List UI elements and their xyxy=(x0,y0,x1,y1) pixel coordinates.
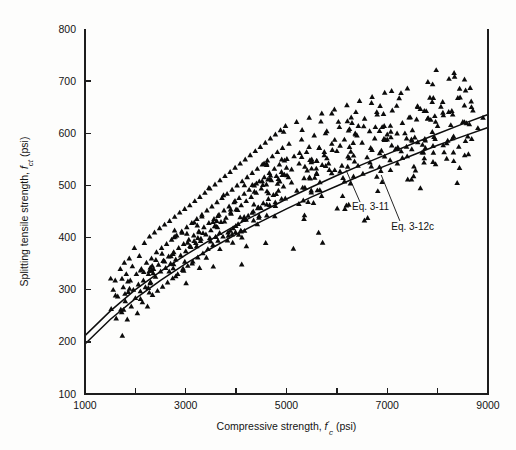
data-point-marker xyxy=(364,154,370,159)
data-point-marker xyxy=(336,119,342,124)
y-axis-title: Splitting tensile strength, fct (psi) xyxy=(18,137,35,287)
data-point-marker xyxy=(356,123,362,128)
data-point-marker xyxy=(127,256,133,261)
annotation-label: Eq. 3-12c xyxy=(391,221,434,232)
annotation-leader-line xyxy=(381,175,400,221)
data-point-marker xyxy=(463,88,469,93)
data-point-marker xyxy=(314,166,320,171)
data-point-marker xyxy=(222,173,228,178)
data-point-marker xyxy=(388,129,394,134)
data-point-marker xyxy=(332,167,338,172)
data-point-marker xyxy=(348,115,354,120)
data-point-marker xyxy=(165,280,171,285)
data-point-marker xyxy=(394,103,400,108)
data-point-marker xyxy=(451,158,457,163)
data-point-marker xyxy=(433,67,439,72)
data-point-marker xyxy=(289,167,295,172)
data-point-marker xyxy=(237,214,243,219)
data-point-marker xyxy=(316,230,322,235)
data-point-marker xyxy=(138,288,144,293)
data-point-marker xyxy=(289,179,295,184)
data-point-marker xyxy=(353,109,359,114)
data-point-marker xyxy=(467,85,473,90)
data-point-marker xyxy=(314,170,320,175)
data-point-marker xyxy=(306,115,312,120)
data-point-marker xyxy=(164,241,170,246)
data-point-marker xyxy=(263,140,269,145)
data-point-marker xyxy=(204,208,210,213)
data-point-marker xyxy=(242,157,248,162)
data-point-marker xyxy=(244,174,250,179)
data-point-marker xyxy=(361,123,367,128)
data-point-marker xyxy=(270,153,276,158)
data-point-marker xyxy=(342,137,348,142)
data-point-marker xyxy=(365,215,371,220)
data-point-marker xyxy=(379,148,385,153)
data-point-marker xyxy=(367,128,373,133)
data-point-marker xyxy=(299,127,305,132)
data-point-marker xyxy=(334,206,340,211)
data-point-marker xyxy=(147,234,153,239)
data-point-marker xyxy=(410,127,416,132)
data-point-marker xyxy=(273,132,279,137)
data-point-marker xyxy=(211,264,217,269)
data-point-marker xyxy=(377,103,383,108)
data-point-marker xyxy=(204,255,210,260)
data-point-marker xyxy=(330,147,336,152)
data-point-marker xyxy=(149,256,155,261)
data-point-marker xyxy=(469,136,475,141)
data-point-marker xyxy=(223,215,229,220)
data-point-marker xyxy=(155,288,161,293)
data-point-marker xyxy=(318,119,324,124)
data-point-marker xyxy=(375,188,381,193)
data-point-marker xyxy=(184,231,190,236)
data-point-marker xyxy=(137,253,143,258)
x-axis-tick-label: 5000 xyxy=(275,399,299,411)
data-point-marker xyxy=(177,210,183,215)
data-point-marker xyxy=(438,104,444,109)
y-axis-tick-label: 500 xyxy=(58,179,76,191)
data-point-marker xyxy=(230,240,236,245)
data-point-marker xyxy=(127,286,133,291)
data-point-marker xyxy=(192,198,198,203)
data-point-marker xyxy=(418,185,424,190)
data-point-marker xyxy=(183,280,189,285)
data-point-marker xyxy=(339,163,345,168)
data-point-marker xyxy=(374,174,380,179)
data-point-marker xyxy=(248,194,254,199)
x-axis-title: Compressive strength, f'c (psi) xyxy=(217,419,357,437)
data-point-marker xyxy=(251,218,257,223)
data-point-marker xyxy=(421,160,427,165)
data-point-marker xyxy=(306,144,312,149)
data-point-marker xyxy=(456,144,462,149)
data-point-marker xyxy=(232,165,238,170)
data-point-marker xyxy=(369,94,375,99)
data-point-marker xyxy=(119,276,125,281)
data-point-marker xyxy=(411,173,417,178)
data-point-marker xyxy=(414,117,420,122)
data-point-marker xyxy=(262,174,268,179)
data-point-marker xyxy=(234,183,240,188)
data-point-marker xyxy=(125,317,131,322)
data-point-marker xyxy=(241,191,247,196)
data-point-marker xyxy=(420,142,426,147)
data-point-marker xyxy=(348,149,354,154)
data-point-marker xyxy=(156,262,162,267)
annotations-layer: Eq. 3-11Eq. 3-12c xyxy=(346,170,434,232)
data-point-marker xyxy=(130,263,136,268)
data-point-marker xyxy=(182,206,188,211)
y-axis-tick-label: 800 xyxy=(58,23,76,35)
data-point-marker xyxy=(396,95,402,100)
data-point-marker xyxy=(425,115,431,120)
data-point-marker xyxy=(373,124,379,129)
data-point-marker xyxy=(334,148,340,153)
data-point-marker xyxy=(446,76,452,81)
data-point-marker xyxy=(362,116,368,121)
data-point-marker xyxy=(433,119,439,124)
data-point-marker xyxy=(201,224,207,229)
scatter-points-layer xyxy=(108,67,486,338)
data-point-marker xyxy=(294,188,300,193)
data-point-marker xyxy=(281,184,287,189)
data-point-marker xyxy=(268,136,274,141)
y-axis-tick-label: 300 xyxy=(58,283,76,295)
